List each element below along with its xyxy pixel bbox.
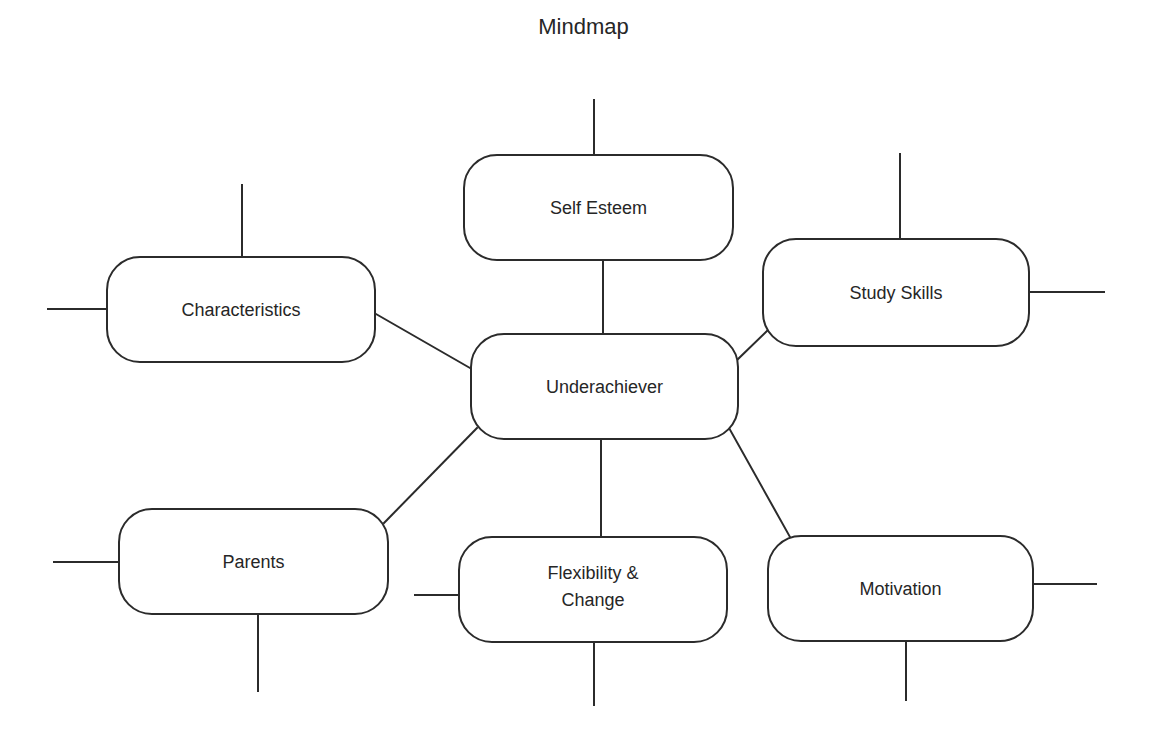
node-flexibility-change: Flexibility & Change [458, 536, 728, 643]
node-label: Self Esteem [550, 197, 647, 219]
node-label: Parents [222, 551, 284, 573]
node-study-skills: Study Skills [762, 238, 1030, 347]
node-label-line2: Change [561, 589, 624, 611]
connector-study-skills-center [737, 330, 768, 360]
node-underachiever: Underachiever [470, 333, 739, 440]
node-parents: Parents [118, 508, 389, 615]
connector-motivation-center [729, 428, 790, 537]
node-label-line1: Flexibility & [547, 562, 638, 584]
node-label: Motivation [859, 578, 941, 600]
node-motivation: Motivation [767, 535, 1034, 642]
connector-characteristics-center [376, 314, 470, 368]
node-label: Underachiever [546, 376, 663, 398]
node-label: Study Skills [849, 282, 942, 304]
node-label: Characteristics [181, 299, 300, 321]
node-self-esteem: Self Esteem [463, 154, 734, 261]
connector-parents-center [384, 428, 477, 523]
node-characteristics: Characteristics [106, 256, 376, 363]
